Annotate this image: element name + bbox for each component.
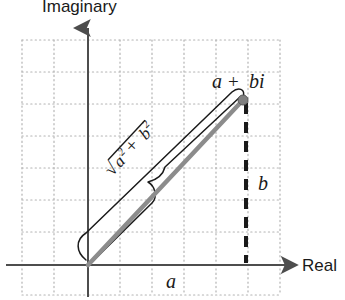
point-label-bi: bi: [249, 70, 265, 92]
point-label-a: a: [212, 70, 222, 92]
imaginary-axis-label: Imaginary: [42, 0, 117, 16]
hypotenuse-outline: [78, 89, 244, 262]
point-dot: [238, 95, 248, 105]
real-leg-label: a: [166, 270, 176, 292]
grid-lines: [22, 40, 280, 295]
imaginary-leg-label: b: [258, 172, 268, 194]
modulus-vector: [88, 100, 243, 265]
figure-canvas: Imaginary Real a + bi a b √ a 2 + b 2: [0, 0, 345, 300]
point-label-plus: +: [228, 71, 239, 92]
point-label: a + bi: [212, 70, 265, 92]
axes: [6, 28, 296, 297]
complex-plane-diagram: Imaginary Real a + bi a b √ a 2 + b 2: [0, 0, 345, 300]
real-axis-label: Real: [302, 256, 337, 275]
